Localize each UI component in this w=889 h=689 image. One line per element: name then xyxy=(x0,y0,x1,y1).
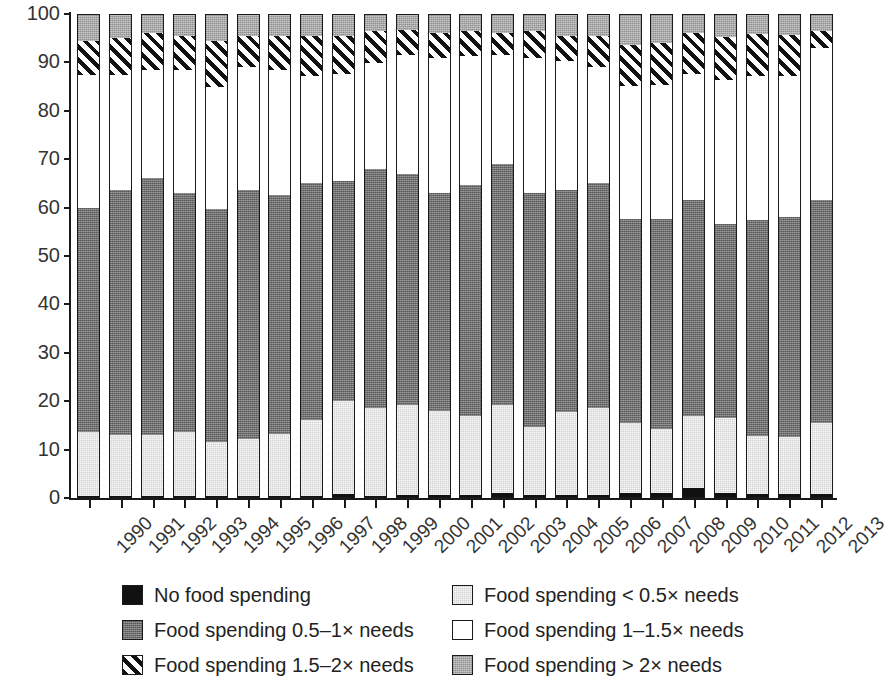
bar-segment-half_to_1 xyxy=(396,174,419,405)
y-tick-mark xyxy=(64,449,71,451)
bar-segment-half_to_1 xyxy=(778,217,801,437)
bar-2004 xyxy=(523,14,546,498)
bar-segment-15_to_2 xyxy=(141,33,164,69)
bar-segment-15_to_2 xyxy=(810,31,833,47)
bar-segment-gt_2 xyxy=(778,14,801,35)
x-tick-2007 xyxy=(630,500,632,508)
legend-item-15_to_2: Food spending 1.5–2× needs xyxy=(122,654,452,676)
bar-segment-1_to_15 xyxy=(205,87,228,208)
bar-segment-1_to_15 xyxy=(237,67,260,190)
legend-label: Food spending > 2× needs xyxy=(484,654,722,676)
legend-label: No food spending xyxy=(154,584,311,606)
bar-2002 xyxy=(459,14,482,498)
bar-segment-1_to_15 xyxy=(555,61,578,190)
bar-segment-none xyxy=(396,495,419,498)
bar-segment-none xyxy=(491,493,514,498)
y-tick-mark xyxy=(64,400,71,402)
x-tick-1997 xyxy=(312,500,314,508)
bar-segment-1_to_15 xyxy=(268,70,291,195)
bar-segment-gt_2 xyxy=(682,14,705,33)
bar-segment-none xyxy=(810,494,833,498)
bar-segment-1_to_15 xyxy=(364,63,387,169)
bar-segment-gt_2 xyxy=(332,14,355,36)
y-tick-label: 0 xyxy=(49,486,60,508)
bar-2012 xyxy=(778,14,801,498)
bar-segment-half_to_1 xyxy=(650,219,673,429)
bar-segment-lt_half xyxy=(173,432,196,496)
bar-segment-none xyxy=(332,494,355,498)
bar-segment-lt_half xyxy=(523,427,546,495)
bar-segment-15_to_2 xyxy=(77,41,100,75)
bar-segment-gt_2 xyxy=(746,14,769,34)
y-tick-label: 70 xyxy=(38,147,60,169)
bar-segment-lt_half xyxy=(205,442,228,496)
bar-segment-15_to_2 xyxy=(619,45,642,86)
bar-segment-1_to_15 xyxy=(459,56,482,185)
bar-segment-none xyxy=(428,495,451,498)
x-tick-1993 xyxy=(184,500,186,508)
bar-segment-lt_half xyxy=(555,412,578,495)
bar-segment-half_to_1 xyxy=(237,190,260,439)
bar-2013 xyxy=(810,14,833,498)
bar-segment-15_to_2 xyxy=(109,38,132,74)
y-tick-mark xyxy=(64,352,71,354)
x-tick-1995 xyxy=(248,500,250,508)
bar-segment-gt_2 xyxy=(300,14,323,36)
bar-segment-15_to_2 xyxy=(714,37,737,81)
x-tick-2006 xyxy=(598,500,600,508)
legend-label: Food spending 1–1.5× needs xyxy=(484,619,744,641)
bar-segment-half_to_1 xyxy=(619,219,642,423)
bar-segment-gt_2 xyxy=(491,14,514,33)
bar-segment-1_to_15 xyxy=(810,48,833,200)
bar-segment-half_to_1 xyxy=(459,185,482,416)
bar-segment-gt_2 xyxy=(810,14,833,31)
bar-segment-none xyxy=(459,495,482,498)
bar-segment-half_to_1 xyxy=(205,209,228,442)
bar-segment-15_to_2 xyxy=(523,31,546,58)
bar-1999 xyxy=(364,14,387,498)
bar-segment-lt_half xyxy=(491,405,514,493)
bar-segment-gt_2 xyxy=(650,14,673,43)
bar-segment-lt_half xyxy=(746,436,769,494)
y-tick-mark xyxy=(64,255,71,257)
bar-segment-lt_half xyxy=(77,432,100,496)
bar-segment-none xyxy=(714,493,737,498)
y-tick-label: 50 xyxy=(38,244,60,266)
legend-swatch-none xyxy=(122,585,143,605)
bar-segment-15_to_2 xyxy=(650,43,673,85)
bar-segment-gt_2 xyxy=(396,14,419,30)
x-tick-1996 xyxy=(280,500,282,508)
y-tick-label: 100 xyxy=(27,2,60,24)
bar-segment-half_to_1 xyxy=(268,195,291,434)
bar-segment-1_to_15 xyxy=(523,58,546,193)
x-tick-1999 xyxy=(375,500,377,508)
bar-segment-gt_2 xyxy=(459,14,482,31)
bar-segment-15_to_2 xyxy=(459,31,482,56)
bar-2011 xyxy=(746,14,769,498)
bar-segment-none xyxy=(141,496,164,498)
x-tick-2005 xyxy=(566,500,568,508)
bar-2001 xyxy=(428,14,451,498)
bar-2000 xyxy=(396,14,419,498)
bar-segment-1_to_15 xyxy=(714,80,737,224)
bar-segment-half_to_1 xyxy=(682,200,705,416)
x-axis-label-2013: 2013 xyxy=(844,513,888,557)
y-tick-label: 40 xyxy=(38,292,60,314)
bar-2010 xyxy=(714,14,737,498)
bar-segment-lt_half xyxy=(714,418,737,494)
bar-2003 xyxy=(491,14,514,498)
bar-segment-half_to_1 xyxy=(173,193,196,432)
bar-segment-half_to_1 xyxy=(810,200,833,423)
bar-segment-gt_2 xyxy=(619,14,642,45)
bar-segment-lt_half xyxy=(459,416,482,495)
legend-item-1_to_15: Food spending 1–1.5× needs xyxy=(452,619,782,641)
bar-1997 xyxy=(300,14,323,498)
bar-segment-1_to_15 xyxy=(650,85,673,219)
bar-segment-none xyxy=(268,496,291,498)
bar-segment-half_to_1 xyxy=(523,193,546,427)
bar-segment-half_to_1 xyxy=(555,190,578,412)
bar-segment-none xyxy=(77,496,100,498)
bar-segment-15_to_2 xyxy=(268,36,291,70)
bar-segment-lt_half xyxy=(682,416,705,489)
bar-segment-half_to_1 xyxy=(428,193,451,411)
